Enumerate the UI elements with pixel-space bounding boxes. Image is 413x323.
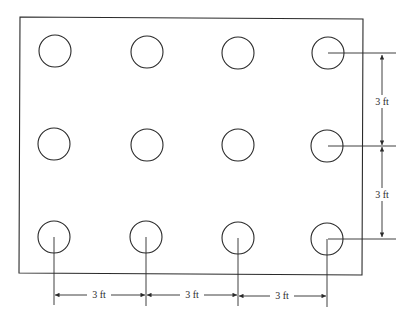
pile-r2-c1 bbox=[38, 128, 70, 160]
horizontal-dimension: 3 ft 3 ft 3 ft bbox=[54, 237, 327, 307]
dimension-label-horizontal-3: 3 ft bbox=[275, 290, 289, 301]
pile-r1-c2 bbox=[131, 36, 163, 68]
dimension-label-vertical-1: 3 ft bbox=[375, 96, 389, 107]
dimension-label-horizontal-2: 3 ft bbox=[185, 289, 199, 300]
dimension-label-horizontal-1: 3 ft bbox=[92, 289, 106, 300]
pile-grid bbox=[38, 35, 344, 255]
pile-r2-c2 bbox=[131, 129, 163, 161]
pile-r2-c3 bbox=[222, 129, 254, 161]
dimension-label-vertical-2: 3 ft bbox=[375, 189, 389, 200]
pile-r1-c1 bbox=[39, 35, 71, 67]
pile-r1-c3 bbox=[222, 37, 254, 69]
pile-layout-diagram: 3 ft 3 ft 3 ft 3 ft 3 ft bbox=[0, 0, 413, 323]
